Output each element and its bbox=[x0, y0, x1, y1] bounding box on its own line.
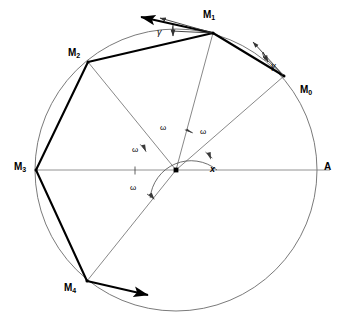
point-label-m4-sub: 4 bbox=[72, 287, 76, 294]
point-label-m2: M2 bbox=[68, 48, 80, 58]
gamma-tick-arrows bbox=[173, 25, 268, 62]
gamma-label-left: γ bbox=[157, 28, 162, 37]
point-label-a: A bbox=[324, 162, 331, 172]
point-label-m3: M3 bbox=[14, 162, 26, 172]
vertex-dots bbox=[35, 32, 286, 283]
point-label-a-base: A bbox=[324, 161, 331, 172]
gamma-ray-m1 bbox=[160, 18, 213, 33]
arc-arrow-4 bbox=[148, 193, 154, 200]
point-label-m4: M4 bbox=[64, 283, 76, 293]
center-point bbox=[174, 168, 179, 173]
central-angle-arcs bbox=[150, 161, 217, 198]
point-label-m3-sub: 3 bbox=[22, 166, 26, 173]
arc-arrow-1 bbox=[207, 152, 212, 160]
chord-m2-m3 bbox=[36, 62, 88, 170]
diagram-canvas: M0 M1 M2 M3 M4 A ω ω ω ω x γ γ bbox=[0, 0, 345, 330]
point-label-m1: M1 bbox=[203, 10, 215, 20]
vertex-dot-m3 bbox=[35, 169, 38, 172]
radii-group bbox=[87, 33, 284, 281]
omega-label-2: ω bbox=[200, 128, 206, 136]
vertex-dot-m1 bbox=[212, 32, 215, 35]
gamma-label-right: γ bbox=[271, 62, 276, 71]
gamma-construction-lines bbox=[160, 18, 284, 76]
x-angle-label: x bbox=[210, 165, 215, 174]
chord-m3-m4 bbox=[36, 170, 87, 281]
omega-label-1: ω bbox=[160, 124, 166, 132]
point-label-m0: M0 bbox=[300, 85, 312, 95]
arc-arrow-3 bbox=[141, 145, 146, 153]
omega-label-3: ω bbox=[132, 146, 138, 154]
radius-to-m1 bbox=[176, 33, 213, 170]
point-label-m1-sub: 1 bbox=[211, 14, 215, 21]
point-label-m2-sub: 2 bbox=[76, 52, 80, 59]
velocity-arrow-m4 bbox=[87, 281, 148, 295]
vertex-dot-m0 bbox=[283, 75, 286, 78]
geometry-figure bbox=[0, 0, 345, 330]
omega-label-4: ω bbox=[130, 184, 136, 192]
radius-to-m0 bbox=[176, 76, 284, 170]
chord-chain bbox=[36, 33, 284, 281]
vertex-dot-m4 bbox=[86, 280, 89, 283]
point-label-m0-sub: 0 bbox=[308, 89, 312, 96]
vertex-dot-m2 bbox=[87, 61, 90, 64]
arc-omega-x bbox=[150, 161, 217, 198]
